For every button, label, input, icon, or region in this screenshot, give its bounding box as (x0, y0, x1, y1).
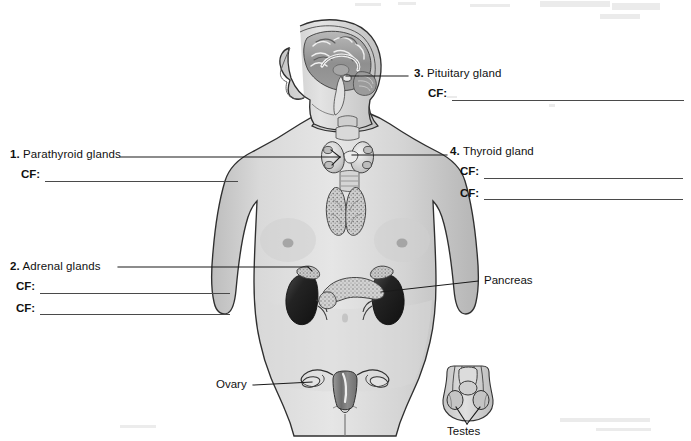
adrenal-cf-row-2: CF: (16, 303, 230, 316)
label-parathyroid-number: 1. (10, 148, 20, 160)
cf-tag: CF: (428, 88, 447, 101)
cf-answer-blank[interactable] (45, 181, 238, 182)
label-ovary: Ovary (216, 378, 247, 390)
testes-inset (443, 366, 493, 421)
label-pituitary-title: 3. Pituitary gland (414, 67, 684, 79)
label-thyroid-name: Thyroid gland (463, 145, 534, 157)
label-parathyroid-glands: 1. Parathyroid glands CF: (10, 148, 238, 182)
adrenal-cf-row-1: CF: (16, 281, 230, 294)
thyroid-cf-row-2: CF: (460, 188, 683, 201)
label-adrenal-title: 2. Adrenal glands (10, 260, 230, 272)
thyroid-cf-row-1: CF: (460, 166, 683, 179)
label-thyroid-gland: 4. Thyroid gland CF: CF: (450, 145, 683, 200)
label-testes: Testes (447, 425, 480, 437)
cf-tag: CF: (16, 281, 35, 294)
parathyroid-cf-row-1: CF: (21, 169, 238, 182)
cf-tag: CF: (16, 303, 35, 316)
label-pancreas: Pancreas (484, 274, 533, 286)
label-parathyroid-name: Parathyroid glands (23, 148, 121, 160)
testis-right-organ (473, 391, 489, 410)
label-adrenal-name: Adrenal glands (22, 260, 100, 272)
head-with-brain (280, 20, 381, 130)
label-thyroid-title: 4. Thyroid gland (450, 145, 683, 157)
cf-tag: CF: (460, 166, 479, 179)
label-pituitary-number: 3. (414, 67, 424, 79)
cf-tag: CF: (460, 188, 479, 201)
cf-answer-blank[interactable] (40, 314, 230, 315)
label-adrenal-number: 2. (10, 260, 20, 272)
pituitary-cf-row-1: CF: (428, 88, 684, 101)
label-thyroid-number: 4. (450, 145, 460, 157)
label-pituitary-name: Pituitary gland (427, 67, 501, 79)
cf-answer-blank[interactable] (40, 293, 230, 294)
cf-answer-blank[interactable] (484, 199, 683, 200)
cf-answer-blank[interactable] (452, 100, 684, 101)
endocrine-diagram-page: 1. Parathyroid glands CF: 2. Adrenal gla… (0, 0, 691, 441)
label-adrenal-glands: 2. Adrenal glands CF: CF: (10, 260, 230, 315)
cf-tag: CF: (21, 169, 40, 182)
label-parathyroid-title: 1. Parathyroid glands (10, 148, 238, 160)
cf-answer-blank[interactable] (484, 178, 683, 179)
testis-left-organ (447, 391, 463, 410)
label-pituitary-gland: 3. Pituitary gland CF: (414, 67, 684, 101)
